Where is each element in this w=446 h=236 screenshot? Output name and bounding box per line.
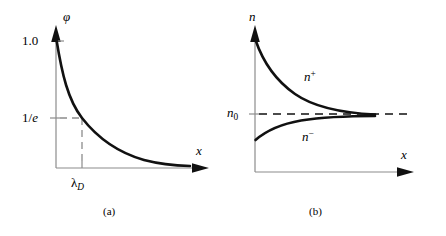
panel-b-curve-n-minus [256, 116, 376, 140]
panel-b-y-axis-label: n [249, 10, 256, 23]
panel-a: φ x 1.0 1/e λD (a) [0, 0, 223, 236]
panel-a-y-axis-label: φ [63, 10, 70, 23]
panel-b-curve-label-n-plus: n+ [304, 70, 316, 83]
panel-a-xtick-lambda-sub: D [77, 182, 84, 192]
panel-b-x-axis-arrowhead [397, 167, 414, 177]
panel-b-caption: (b) [309, 206, 322, 217]
panel-a-caption: (a) [103, 206, 115, 217]
panel-a-ytick-1p0-text: 1.0 [22, 33, 38, 48]
panel-b-curve-label-n-minus: n− [302, 130, 314, 143]
panel-b-n-plus-sup: + [311, 69, 316, 79]
panel-b-ytick-n0-sub: 0 [234, 112, 239, 122]
panel-a-ytick-label-1p0: 1.0 [22, 34, 38, 47]
panel-a-xtick-label-lambda: λD [71, 176, 84, 192]
panel-b-n-minus-sup: − [309, 129, 314, 139]
panel-b-ytick-label-n0: n0 [227, 106, 238, 122]
figure-root: φ x 1.0 1/e λD (a) [0, 0, 446, 236]
panel-a-ytick-1overe-text: 1/ [22, 110, 32, 125]
panel-a-ytick-1overe-sub: e [32, 110, 38, 125]
panel-a-x-axis-arrowhead [192, 163, 209, 173]
panel-a-curve-phi [57, 40, 191, 166]
panel-b-x-axis-label: x [401, 148, 407, 161]
panel-a-ytick-label-1overe: 1/e [22, 111, 38, 124]
panel-a-x-axis-label: x [196, 144, 202, 157]
panel-b: n x n0 n+ n− (b) [223, 0, 446, 236]
